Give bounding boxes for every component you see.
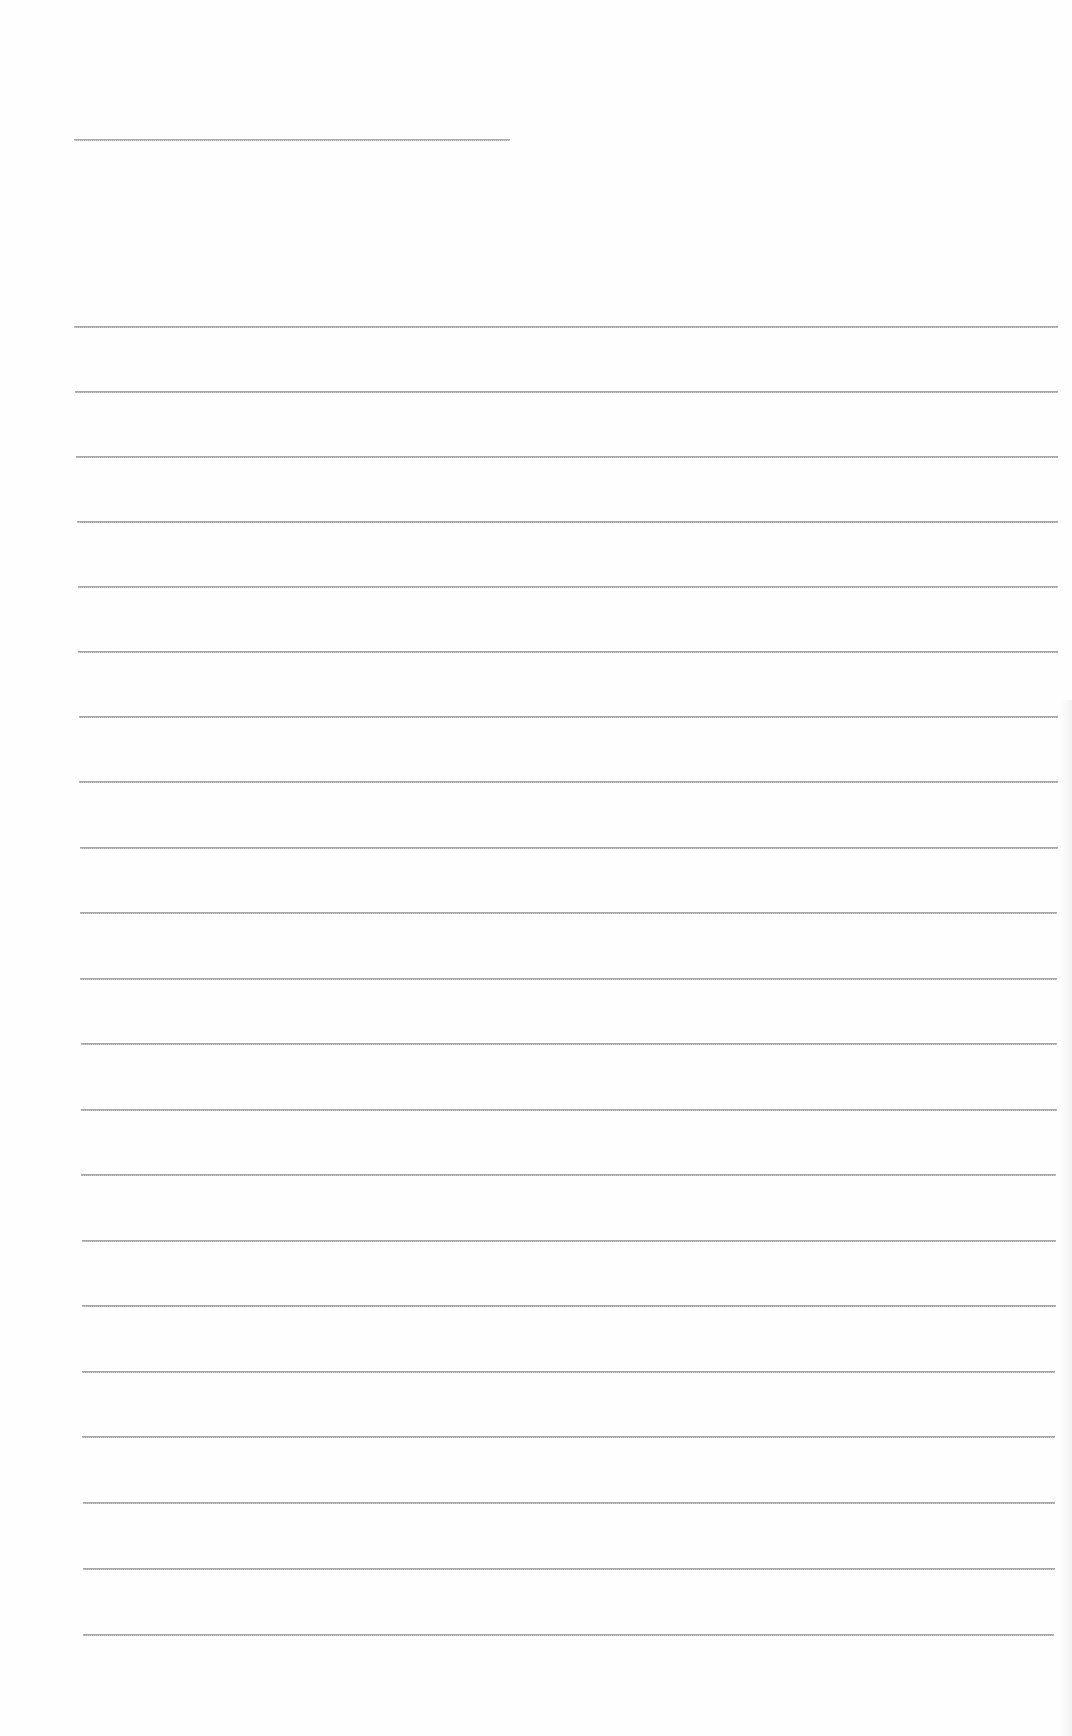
ruled-line — [83, 1502, 1055, 1504]
ruled-line — [80, 978, 1057, 980]
ruled-line — [78, 651, 1058, 653]
ruled-line — [82, 1305, 1056, 1307]
ruled-line — [82, 1240, 1056, 1242]
ruled-line — [81, 1109, 1057, 1111]
ruled-line — [77, 521, 1058, 523]
ruled-line — [76, 456, 1058, 458]
lined-page — [0, 0, 1072, 1736]
ruled-line — [81, 1043, 1057, 1045]
ruled-line — [79, 781, 1058, 783]
ruled-line — [78, 586, 1058, 588]
ruled-line — [80, 847, 1058, 849]
ruled-line — [81, 1174, 1056, 1176]
page-edge-shadow — [1060, 700, 1072, 1736]
ruled-line — [83, 1568, 1055, 1570]
ruled-line — [80, 912, 1057, 914]
ruled-line — [79, 716, 1058, 718]
ruled-line — [82, 1436, 1055, 1438]
ruled-line — [75, 391, 1058, 393]
ruled-line — [82, 1371, 1055, 1373]
ruled-line — [83, 1634, 1054, 1636]
header-write-line — [74, 139, 510, 141]
ruled-line — [74, 326, 1058, 328]
